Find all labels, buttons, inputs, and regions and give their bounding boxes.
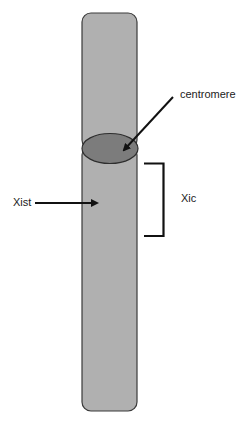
centromere-label: centromere <box>180 89 236 100</box>
centromere-ellipse <box>82 134 138 164</box>
chromosome-diagram <box>0 0 248 422</box>
chromosome-upper-arm <box>82 13 137 149</box>
xic-label: Xic <box>181 193 196 204</box>
xic-bracket <box>144 164 164 237</box>
xist-label: Xist <box>13 197 31 208</box>
chromosome-lower-arm <box>82 146 137 411</box>
